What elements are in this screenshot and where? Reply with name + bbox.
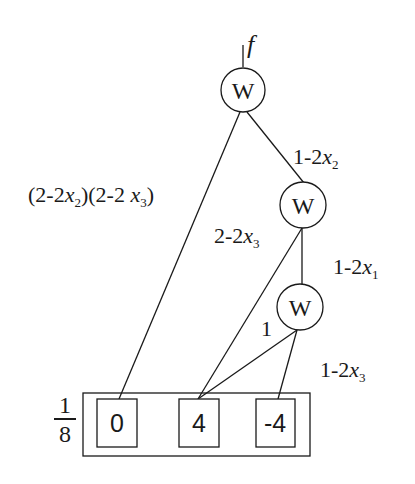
edge-label-bottom-to-neg4: 1-2x3 bbox=[320, 359, 366, 381]
scale-denominator: 8 bbox=[59, 421, 71, 447]
terminal-value-4: 4 bbox=[192, 409, 206, 437]
edge-label-top-to-0: (2-2x2)(2-2 x3) bbox=[28, 184, 154, 206]
terminal-value-0: 0 bbox=[110, 409, 124, 437]
edge-label-bottom-to-4: 1 bbox=[261, 318, 272, 340]
node-w-bottom-label: W bbox=[289, 295, 312, 321]
terminal-value-neg4: -4 bbox=[264, 409, 286, 437]
node-w-top-label: W bbox=[232, 78, 255, 104]
scale-numerator: 1 bbox=[59, 392, 71, 418]
edge-bottom-to-4 bbox=[198, 330, 297, 399]
fraction-bar bbox=[54, 418, 76, 420]
edge-label-middle-to-bottom: 1-2x1 bbox=[333, 256, 379, 278]
edge-label-top-to-middle: 1-2x2 bbox=[293, 146, 339, 168]
edge-top-to-0 bbox=[119, 112, 240, 399]
output-label-f: f bbox=[247, 32, 254, 58]
node-w-middle-label: W bbox=[292, 193, 315, 219]
edge-bottom-to-neg4 bbox=[278, 330, 297, 399]
edge-label-middle-to-4: 2-2x3 bbox=[214, 225, 260, 247]
scale-fraction: 1 8 bbox=[54, 393, 76, 446]
